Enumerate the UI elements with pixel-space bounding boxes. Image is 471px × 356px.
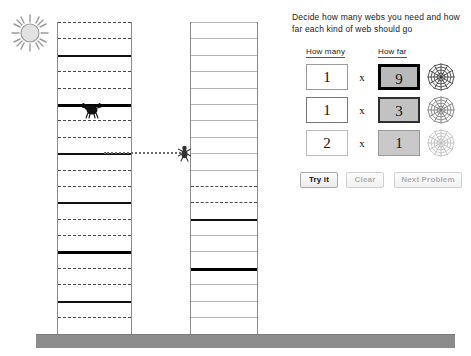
how-many-input[interactable]: 1 [306, 97, 348, 123]
sun-icon [10, 13, 50, 53]
equation-row: 1x9 [292, 62, 467, 95]
how-many-input[interactable]: 1 [306, 64, 348, 90]
spider-icon [82, 103, 102, 119]
tower-rung [58, 170, 131, 171]
tower-rung [58, 202, 131, 204]
multiply-symbol: x [355, 64, 369, 90]
multiply-symbol: x [355, 97, 369, 123]
tower-rung [58, 219, 131, 220]
control-panel: Decide how many webs you need and how fa… [292, 12, 467, 35]
column-headers: How many How far [292, 47, 467, 61]
tower-rung [191, 268, 257, 271]
dotted-web-path [104, 152, 184, 154]
tower-rung [58, 71, 131, 72]
tower-rung [58, 317, 131, 318]
tower-rung [58, 120, 131, 121]
clear-button[interactable]: Clear [346, 172, 384, 188]
tower-rung [191, 22, 257, 23]
tower-rung [191, 88, 257, 89]
spider-web-icon [426, 62, 456, 92]
try-it-button[interactable]: Try it [300, 172, 338, 188]
tower-rung [191, 120, 257, 121]
spider-web-icon [426, 95, 456, 125]
tower-rung [191, 55, 257, 56]
tower-rung [191, 38, 257, 39]
multiply-symbol: x [355, 130, 369, 156]
equation-rows: 1x91x32x1 [292, 62, 467, 161]
right-tower[interactable] [190, 22, 258, 335]
tower-rung [191, 104, 257, 105]
button-bar: Try it Clear Next Problem [300, 172, 471, 190]
equation-row: 1x3 [292, 95, 467, 128]
tower-rung [58, 284, 131, 285]
tower-rung [58, 251, 131, 254]
tower-rung [58, 301, 131, 303]
how-far-input[interactable]: 1 [378, 130, 420, 156]
tower-rung [191, 170, 257, 171]
tower-rung [191, 137, 257, 138]
next-problem-button[interactable]: Next Problem [394, 172, 462, 188]
spider-web-icon [426, 128, 456, 158]
tower-rung [58, 38, 131, 39]
applet-stage: Decide how many webs you need and how fa… [0, 0, 471, 356]
how-far-input[interactable]: 3 [378, 97, 420, 123]
tower-rung [58, 268, 131, 269]
column-header-how-far: How far [378, 47, 407, 58]
tower-rung [191, 301, 257, 302]
column-header-how-many: How many [306, 47, 345, 58]
tower-rung [58, 186, 131, 187]
spider-icon [178, 145, 191, 162]
tower-rung [191, 251, 257, 252]
tower-rung [191, 71, 257, 72]
how-many-input[interactable]: 2 [306, 130, 348, 156]
tower-rung [191, 284, 257, 285]
tower-rung [58, 22, 131, 23]
tower-rung [58, 88, 131, 89]
tower-rung [191, 317, 257, 318]
instructions-text: Decide how many webs you need and how fa… [292, 12, 464, 35]
tower-rung [191, 219, 257, 221]
tower-rung [191, 153, 257, 154]
tower-rung [191, 202, 257, 203]
left-tower[interactable] [57, 22, 132, 335]
tower-rung [58, 235, 131, 236]
equation-row: 2x1 [292, 128, 467, 161]
tower-rung [58, 55, 131, 57]
tower-rung [191, 235, 257, 236]
how-far-input[interactable]: 9 [378, 64, 420, 90]
tower-rung [58, 137, 131, 138]
ground-strip [36, 334, 455, 348]
tower-rung [191, 186, 257, 187]
